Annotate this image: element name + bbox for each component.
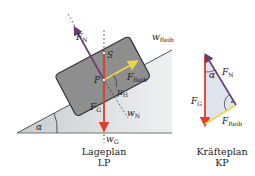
center-of-mass-point	[102, 51, 106, 55]
kp-alpha-label: α	[209, 70, 215, 80]
kraefteplan-abbrev: KP	[215, 157, 229, 168]
force-triangle	[205, 55, 236, 124]
p-label: P	[93, 75, 101, 85]
contact-point	[102, 78, 106, 82]
kp-fn-label: FN	[221, 67, 234, 78]
wreib-label: wReib	[152, 32, 174, 43]
alpha-label: α	[36, 122, 42, 132]
lageplan-abbrev: LP	[98, 157, 111, 168]
s-label: S	[107, 50, 113, 60]
inclined-plane-diagram: α FN S P FReib μH FG wN wG wReib Lagepla…	[0, 0, 255, 176]
kp-fg-label: FG	[190, 96, 202, 107]
lageplan-caption: Lageplan	[82, 146, 127, 157]
kraefteplan-caption: Kräfteplan	[196, 146, 247, 157]
kp-freib-label: FReib	[221, 116, 242, 127]
wg-label: wG	[106, 134, 119, 145]
fn-label: FN	[75, 32, 88, 43]
